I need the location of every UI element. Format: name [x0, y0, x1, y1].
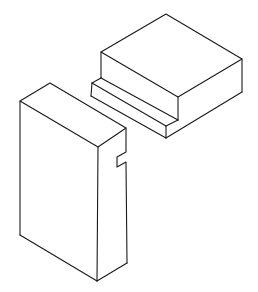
upper-block — [91, 14, 242, 138]
isometric-joint-drawing — [0, 0, 258, 292]
lower-block — [20, 83, 127, 281]
joint-diagram — [0, 0, 258, 292]
